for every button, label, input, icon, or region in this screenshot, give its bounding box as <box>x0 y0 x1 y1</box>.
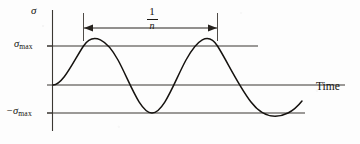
period-numerator: 1 <box>138 6 166 19</box>
neg-sigma-max-subscript: max <box>18 109 32 118</box>
stress-axis-label-text: σ <box>31 4 36 16</box>
time-axis-label-text: Time <box>316 80 340 92</box>
period-arrowhead-right <box>208 25 217 32</box>
period-denominator: n <box>138 20 166 32</box>
sigma-max-label: σmax <box>14 39 33 50</box>
stress-axis-label: σ <box>31 5 36 16</box>
period-annotation: 1 n <box>138 6 166 31</box>
time-axis-label: Time <box>316 81 340 93</box>
neg-sigma-max-symbol: −σ <box>6 105 18 116</box>
stress-waveform-curve <box>53 39 302 117</box>
stress-cycle-figure: σ σmax −σmax Time 1 n <box>0 0 360 144</box>
sigma-max-subscript: max <box>19 42 33 51</box>
neg-sigma-max-label: −σmax <box>6 106 32 117</box>
period-arrowhead-left <box>84 25 93 32</box>
stress-cycle-plot <box>0 0 360 144</box>
